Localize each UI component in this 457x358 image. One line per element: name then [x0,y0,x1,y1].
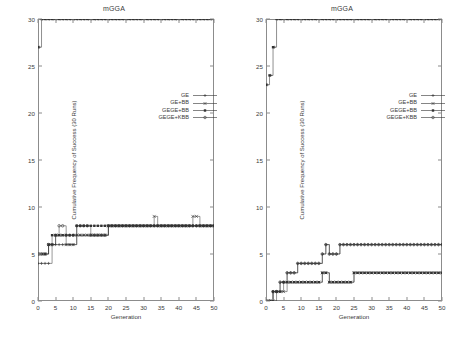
x-tick-mark [161,19,162,23]
y-tick-mark [266,207,270,208]
y-tick-mark [266,301,270,302]
y-tick-label: 5 [32,251,35,258]
legend-label: GEGE+BB [390,107,420,114]
x-tick-mark [108,19,109,23]
legend-item-ge: GE [386,92,446,99]
x-tick-mark [354,297,355,301]
x-tick-mark [301,297,302,301]
legend-label: GEGE+BB [162,107,192,114]
y-tick-label: 5 [260,251,263,258]
legend-sample-plus [420,92,446,99]
y-tick-mark [438,207,442,208]
y-tick-label: 0 [32,298,35,305]
x-tick-label: 0 [36,304,39,311]
x-tick-mark [371,297,372,301]
x-tick-label: 20 [105,304,112,311]
x-tick-mark [196,297,197,301]
legend-item-ge-bb: GE+BB [386,99,446,106]
x-tick-mark [90,297,91,301]
x-tick-mark [336,19,337,23]
x-tick-label: 15 [87,304,94,311]
x-tick-mark [424,297,425,301]
x-tick-mark [424,19,425,23]
x-tick-label: 5 [54,304,57,311]
y-tick-mark [210,66,214,67]
y-tick-mark [38,254,42,255]
y-tick-mark [266,19,270,20]
x-tick-mark [196,19,197,23]
y-tick-mark [38,207,42,208]
chart-panel-left: mGGA Cumulative Frequency of Success (30… [0,0,228,358]
legend-label: GE+BB [398,99,420,106]
y-tick-mark [38,66,42,67]
x-tick-mark [143,19,144,23]
y-tick-label: 0 [260,298,263,305]
y-tick-mark [438,160,442,161]
legend-sample-plus [192,92,218,99]
x-tick-label: 25 [123,304,130,311]
plot-svg [38,19,214,301]
x-tick-mark [406,297,407,301]
y-tick-mark [38,19,42,20]
x-tick-label: 35 [158,304,165,311]
legend-label: GE [181,92,192,99]
x-tick-mark [442,19,443,23]
y-tick-mark [438,254,442,255]
legend-label: GE+BB [170,99,192,106]
legend-label: GEGE+KBB [386,114,420,121]
plot-svg [266,19,442,301]
legend-sample-circle [420,114,446,121]
legend-sample-square [420,107,446,114]
y-tick-mark [210,160,214,161]
y-tick-mark [210,254,214,255]
x-tick-mark [214,19,215,23]
x-tick-label: 40 [403,304,410,311]
x-tick-mark [108,297,109,301]
y-tick-label: 25 [256,63,263,70]
x-tick-label: 5 [282,304,285,311]
x-tick-mark [143,297,144,301]
x-tick-mark [38,19,39,23]
x-tick-mark [389,297,390,301]
x-tick-label: 0 [264,304,267,311]
legend-item-gege-kbb: GEGE+KBB [158,114,218,121]
y-tick-mark [38,301,42,302]
legend-sample-circle [192,114,218,121]
x-axis-label: Generation [266,313,442,320]
legend-sample-cross [192,100,218,107]
y-tick-mark [38,160,42,161]
x-tick-mark [55,19,56,23]
x-tick-mark [126,297,127,301]
legend-item-ge: GE [158,92,218,99]
x-tick-mark [406,19,407,23]
y-tick-label: 20 [28,110,35,117]
chart-legend: GEGE+BBGEGE+BBGEGE+KBB [158,92,218,122]
x-tick-mark [389,19,390,23]
x-tick-mark [73,297,74,301]
x-tick-label: 40 [175,304,182,311]
y-tick-label: 25 [28,63,35,70]
x-tick-mark [283,19,284,23]
x-tick-mark [266,297,267,301]
x-tick-mark [55,297,56,301]
y-tick-label: 30 [256,16,263,23]
x-tick-label: 45 [193,304,200,311]
x-tick-mark [371,19,372,23]
x-tick-label: 50 [211,304,218,311]
x-tick-label: 25 [351,304,358,311]
chart-title: mGGA [0,5,228,12]
x-tick-mark [90,19,91,23]
y-tick-mark [210,207,214,208]
legend-item-gege-bb: GEGE+BB [158,107,218,114]
y-tick-mark [266,160,270,161]
legend-item-gege-kbb: GEGE+KBB [386,114,446,121]
x-tick-mark [354,19,355,23]
x-tick-label: 35 [386,304,393,311]
legend-label: GEGE+KBB [158,114,192,121]
x-tick-mark [126,19,127,23]
x-tick-mark [73,19,74,23]
x-tick-mark [336,297,337,301]
x-tick-mark [318,297,319,301]
y-tick-label: 10 [28,204,35,211]
y-axis-label: Cumulative Frequency of Success (30 Runs… [299,60,305,260]
